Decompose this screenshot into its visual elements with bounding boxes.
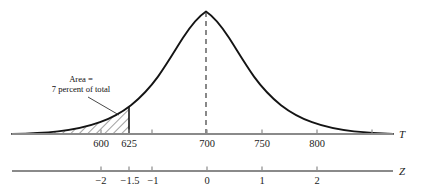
annotation-leader-line <box>88 97 119 115</box>
area-annotation: Area = 7 percent of total <box>52 74 119 115</box>
z-axis-label: Z <box>399 165 406 177</box>
z-tick-label-1: 1 <box>259 175 264 186</box>
distribution-plot: 600 625 700 750 800 T −2 −1.5 −1 0 1 2 <box>0 0 421 193</box>
t-axis-label: T <box>399 128 406 140</box>
z-tick-label-neg2: −2 <box>95 175 106 186</box>
z-tick-label-neg1point5: −1.5 <box>120 175 139 186</box>
z-axis: −2 −1.5 −1 0 1 2 Z <box>12 165 406 186</box>
z-tick-label-neg1: −1 <box>147 175 158 186</box>
normal-curve <box>12 12 393 134</box>
normal-distribution-figure: 600 625 700 750 800 T −2 −1.5 −1 0 1 2 <box>0 0 421 193</box>
t-tick-label-800: 800 <box>309 138 325 149</box>
t-tick-label-700: 700 <box>199 138 215 149</box>
z-tick-label-0: 0 <box>204 175 209 186</box>
t-tick-label-625: 625 <box>121 138 137 149</box>
t-tick-label-750: 750 <box>254 138 270 149</box>
annotation-line-1: Area = <box>69 74 93 84</box>
t-tick-label-600: 600 <box>93 138 109 149</box>
annotation-line-2: 7 percent of total <box>52 84 111 94</box>
z-tick-label-2: 2 <box>314 175 319 186</box>
